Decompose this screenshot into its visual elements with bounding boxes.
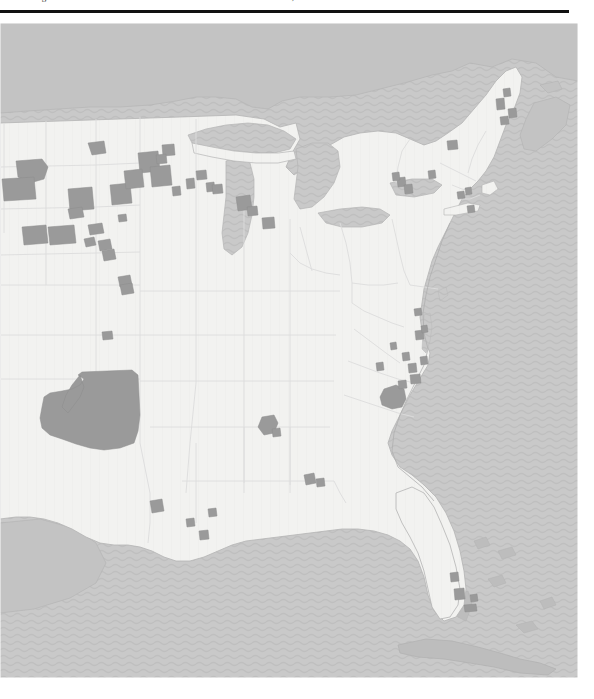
reservation-crow-creek [68, 207, 84, 219]
reservation-allegany [404, 184, 413, 194]
reservation-shinnecock [467, 205, 475, 213]
reservation-nc-small-2 [390, 342, 397, 350]
reservation-mattaponi [421, 325, 428, 333]
reservation-lac-du-flambeau [212, 184, 223, 194]
reservation-coushatta-la [186, 518, 195, 527]
reservation-poarch-creek [304, 473, 316, 485]
reservation-lumbee [410, 374, 421, 384]
reservation-tonawanda [392, 172, 400, 181]
reservation-sac-fox-ia [102, 331, 113, 340]
reservation-onondaga [428, 170, 436, 179]
right-margin [578, 23, 594, 678]
reservation-narragansett [465, 187, 472, 195]
map-svg [0, 23, 578, 678]
reservation-seminole-hollywood [470, 594, 478, 602]
reservation-pine-ridge [22, 225, 48, 245]
reservation-oneida-wi [247, 206, 258, 216]
reservation-flandreau [118, 214, 127, 222]
reservation-coharie [402, 352, 410, 361]
reservation-santee [84, 237, 96, 247]
figure-caption: Figure 3. American Indian reservations a… [34, 0, 420, 2]
reservation-isabella [262, 217, 275, 229]
reservation-houlton [503, 88, 511, 97]
reservation-alabama-coushatta [150, 499, 164, 513]
reservation-rosebud [48, 225, 76, 245]
reservation-penobscot [496, 98, 505, 110]
reservation-yankton [88, 223, 104, 235]
map-body [0, 23, 578, 678]
reservation-miccosukee [464, 604, 477, 612]
reservation-potawatomi-ks [120, 283, 134, 295]
reservation-omaha [102, 249, 116, 261]
reservation-catawba [408, 363, 417, 373]
reservation-choctaw-outlier [272, 428, 281, 437]
reservation-leech-lake [150, 165, 172, 187]
reservation-seminole-brighton [450, 572, 459, 582]
reservation-tunica-biloxi [208, 508, 217, 517]
rule-gap [0, 13, 594, 23]
reservation-va-small [414, 308, 422, 316]
reservation-winnebago [98, 239, 112, 251]
reservation-mashantucket [457, 191, 465, 199]
map-plate [0, 23, 578, 678]
reservation-cheyenne-river [2, 177, 36, 201]
bottom-margin [0, 678, 594, 699]
reservation-bad-river [196, 170, 207, 180]
reservation-nett-lake [156, 154, 167, 164]
reservation-poarch-outlier [316, 478, 325, 487]
reservation-chitimacha [199, 530, 209, 540]
reservation-fond-du-lac [186, 178, 195, 189]
reservation-mille-lacs [172, 186, 181, 196]
reservation-white-earth [124, 169, 144, 189]
reservation-waccamaw [420, 356, 428, 365]
reservation-st-regis-mohawk [447, 140, 458, 150]
caption-strip: Figure 3. American Indian reservations a… [0, 0, 594, 9]
reservation-qualla-extension [398, 380, 407, 389]
reservation-nc-small-1 [376, 362, 384, 371]
reservation-passamaquoddy [508, 108, 517, 118]
reservation-indian-township [500, 116, 509, 125]
reservation-seminole-big-cypress [454, 588, 465, 600]
